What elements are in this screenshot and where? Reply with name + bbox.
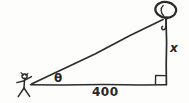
stick-figure-person-icon bbox=[17, 73, 32, 97]
angle-theta-label: θ bbox=[54, 71, 62, 85]
balloon-icon bbox=[155, 2, 176, 30]
diagram-canvas: 400 x θ bbox=[0, 0, 189, 103]
base-length-label: 400 bbox=[92, 85, 119, 100]
triangle-height-line bbox=[166, 20, 167, 85]
height-variable-label: x bbox=[170, 41, 178, 55]
right-angle-marker-icon bbox=[156, 76, 166, 85]
triangle-hypotenuse-line bbox=[32, 20, 164, 85]
